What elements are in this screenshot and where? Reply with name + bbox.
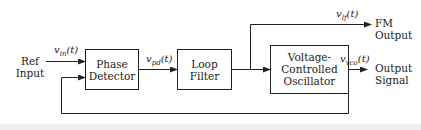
signal-vvco: vvco(t) xyxy=(340,53,370,67)
out-line2: Signal xyxy=(375,74,412,86)
signal-vlf: vlf(t) xyxy=(336,8,358,22)
ref-input-line1: Ref xyxy=(14,55,46,67)
signal-vin: vin(t) xyxy=(54,44,78,58)
vpd-arg: (t) xyxy=(161,53,173,64)
vlf-arg: (t) xyxy=(347,8,359,19)
signal-vpd: vpd(t) xyxy=(146,53,172,67)
vvco-sub: vco xyxy=(346,59,358,67)
output-signal-label: Output Signal xyxy=(375,62,412,86)
vco-line2: Controlled xyxy=(270,63,349,75)
vin-arg: (t) xyxy=(66,44,78,55)
vvco-arg: (t) xyxy=(358,53,370,64)
bottom-divider xyxy=(0,124,421,130)
phase-detector-label: Phase Detector xyxy=(85,58,139,82)
vco-label: Voltage- Controlled Oscillator xyxy=(270,51,349,87)
ref-input-label: Ref Input xyxy=(14,55,46,79)
pd-line1: Phase xyxy=(85,58,139,70)
fm-line2: Output xyxy=(375,29,412,41)
pd-line2: Detector xyxy=(85,70,139,82)
lf-line2: Filter xyxy=(177,70,232,82)
vpd-sub: pd xyxy=(152,59,161,67)
out-line1: Output xyxy=(375,62,412,74)
loop-filter-label: Loop Filter xyxy=(177,58,232,82)
vco-line3: Oscillator xyxy=(270,75,349,87)
fm-line1: FM xyxy=(375,17,412,29)
lf-line1: Loop xyxy=(177,58,232,70)
ref-input-line2: Input xyxy=(14,67,46,79)
fm-output-label: FM Output xyxy=(375,17,412,41)
vco-line1: Voltage- xyxy=(270,51,349,63)
